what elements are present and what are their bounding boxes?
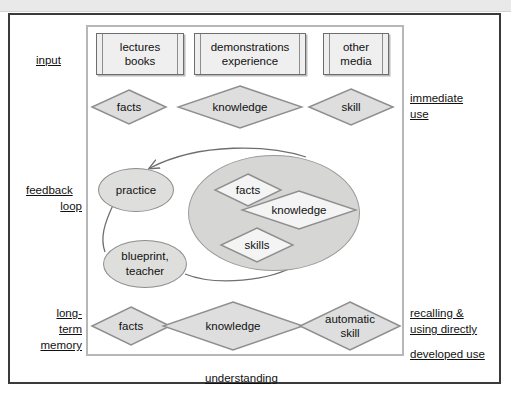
ellipse-blueprint-teacher-label: blueprint, teacher — [121, 249, 168, 279]
diamond-label: knowledge — [206, 319, 261, 333]
doc-line-1: other — [335, 41, 377, 53]
ellipse-practice-label: practice — [116, 183, 156, 198]
doc-line-1: demonstrations — [203, 41, 298, 53]
doc-line-2: books — [117, 55, 164, 67]
doc-other-media-text: othermedia — [324, 40, 387, 69]
doc-line-2: experience — [214, 55, 286, 67]
diamond-label: skills — [245, 238, 270, 252]
ellipse-blueprint-teacher[interactable]: blueprint, teacher — [103, 240, 187, 288]
doc-lectures-books-text: lecturesbooks — [104, 40, 176, 69]
diamond-label: facts — [119, 319, 143, 333]
diamond-label: skill — [341, 100, 360, 114]
doc-line-1: lectures — [112, 41, 168, 53]
diagram-caption: understanding — [205, 372, 278, 384]
diamond-memory-knowledge[interactable]: knowledge — [161, 300, 305, 352]
diamond-label: automatic skill — [325, 312, 375, 340]
doc-demonstrations-experience-text: demonstrationsexperience — [195, 40, 306, 69]
diamond-label: facts — [236, 183, 260, 197]
ellipse-practice[interactable]: practice — [98, 168, 174, 212]
diamond-memory-facts[interactable]: facts — [90, 305, 172, 347]
doc-line-2: media — [332, 55, 379, 67]
connector-practice-to-blueprint — [103, 203, 114, 252]
diamond-label: knowledge — [272, 203, 327, 217]
diamond-memory-automatic-skill[interactable]: automatic skill — [298, 300, 402, 352]
diamond-label: facts — [117, 100, 141, 114]
diamond-cluster-skills[interactable]: skills — [219, 226, 295, 264]
diamond-label: knowledge — [213, 100, 268, 114]
